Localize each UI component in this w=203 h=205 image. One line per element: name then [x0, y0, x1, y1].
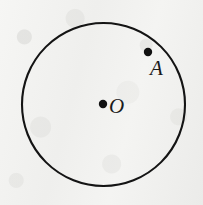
point-dot-O — [99, 100, 107, 108]
point-label-O: O — [109, 96, 124, 117]
circle-diagram-canvas — [0, 0, 203, 205]
point-label-A: A — [150, 58, 163, 79]
point-dot-A — [144, 48, 152, 56]
geometry-figure: A O — [0, 0, 203, 205]
